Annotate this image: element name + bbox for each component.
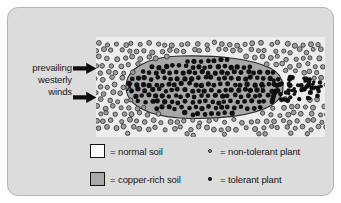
- non-tolerant-plant: [227, 42, 232, 47]
- non-tolerant-plant: [319, 75, 324, 80]
- legend-label-normal-soil: = normal soil: [110, 146, 163, 157]
- tolerant-plant: [164, 64, 169, 69]
- tolerant-plant: [187, 106, 192, 111]
- non-tolerant-plant: [108, 48, 112, 52]
- tolerant-plant: [216, 100, 221, 105]
- tolerant-plant: [162, 99, 167, 104]
- non-tolerant-plant: [151, 118, 156, 123]
- non-tolerant-plant: [185, 132, 189, 136]
- tolerant-plant: [208, 74, 213, 79]
- non-tolerant-plant: [212, 40, 216, 44]
- non-tolerant-plant: [316, 42, 321, 47]
- figure-root: prevailing westerly winds X Y = normal s: [0, 0, 341, 203]
- non-tolerant-plant: [285, 125, 290, 130]
- tolerant-plant: [149, 77, 154, 82]
- tolerant-plant: [274, 83, 279, 88]
- tolerant-plant: [174, 70, 179, 75]
- non-tolerant-plant: [110, 75, 115, 80]
- tolerant-plant: [183, 99, 188, 104]
- non-tolerant-plant: [193, 47, 198, 52]
- non-tolerant-plant: [111, 90, 116, 95]
- non-tolerant-plant: [168, 119, 173, 124]
- non-tolerant-plant: [136, 62, 141, 67]
- tolerant-plant: [307, 79, 312, 84]
- non-tolerant-plant: [249, 47, 254, 52]
- non-tolerant-plant: [164, 54, 169, 59]
- tolerant-plant: [184, 63, 189, 68]
- non-tolerant-plant: [153, 125, 157, 129]
- tolerant-plant: [195, 111, 200, 116]
- tolerant-plant: [214, 106, 219, 111]
- non-tolerant-plant: [269, 113, 273, 117]
- tolerant-plant: [175, 87, 180, 92]
- non-tolerant-plant: [211, 127, 216, 132]
- non-tolerant-plant: [257, 132, 261, 136]
- tolerant-plant: [196, 64, 201, 69]
- tolerant-plant: [182, 110, 187, 115]
- non-tolerant-plant: [309, 42, 314, 47]
- non-tolerant-plant: [108, 98, 113, 103]
- non-tolerant-plant: [100, 64, 105, 69]
- tolerant-plant: [318, 80, 323, 85]
- non-tolerant-plant: [160, 49, 165, 54]
- non-tolerant-plant: [96, 76, 97, 80]
- non-tolerant-plant: [324, 124, 325, 129]
- tolerant-plant: [248, 74, 253, 79]
- non-tolerant-plant: [96, 126, 101, 131]
- non-tolerant-plant: [244, 54, 249, 59]
- non-tolerant-plant: [96, 64, 99, 68]
- non-tolerant-plant: [252, 55, 257, 60]
- legend: = normal soil = copper-rich soil = non-t…: [90, 140, 330, 190]
- non-tolerant-plant: [134, 119, 138, 123]
- tolerant-plant: [212, 83, 217, 88]
- non-tolerant-plant: [168, 48, 173, 53]
- tolerant-plant: [242, 65, 247, 70]
- tolerant-plant: [271, 95, 275, 99]
- tolerant-plant: [213, 71, 218, 76]
- tolerant-plant: [141, 82, 146, 87]
- non-tolerant-plant: [142, 105, 146, 109]
- tolerant-plant: [197, 99, 202, 104]
- tolerant-plant: [253, 94, 258, 99]
- non-tolerant-plant: [96, 103, 100, 108]
- non-tolerant-plant: [292, 43, 297, 48]
- non-tolerant-plant: [319, 113, 323, 117]
- non-tolerant-plant: [243, 42, 247, 46]
- non-tolerant-plant: [244, 126, 248, 130]
- map-label-y: Y: [259, 83, 266, 95]
- tolerant-plant: [135, 86, 140, 91]
- non-tolerant-plant: [181, 49, 186, 54]
- legend-soil-column: = normal soil = copper-rich soil: [90, 140, 181, 190]
- tolerant-plant: [199, 93, 204, 98]
- legend-label-non-tolerant-plant: = non-tolerant plant: [220, 146, 300, 157]
- non-tolerant-plant: [119, 106, 123, 110]
- tolerant-plant: [225, 105, 230, 110]
- non-tolerant-plant: [231, 48, 236, 53]
- non-tolerant-plant: [191, 133, 195, 137]
- tolerant-plant: [307, 96, 311, 100]
- non-tolerant-plant: [278, 114, 282, 118]
- non-tolerant-plant: [113, 70, 118, 75]
- tolerant-plant: [225, 57, 230, 62]
- non-tolerant-plant: [118, 91, 123, 96]
- non-tolerant-plant: [182, 119, 186, 123]
- tolerant-plant: [236, 88, 241, 93]
- tolerant-plant: [209, 111, 214, 116]
- tolerant-plant: [220, 93, 225, 98]
- non-tolerant-plant: [262, 126, 266, 130]
- non-tolerant-plant: [295, 104, 300, 109]
- tolerant-plant-dot-icon: [202, 177, 218, 181]
- tolerant-plant: [267, 82, 272, 87]
- non-tolerant-plant: [174, 48, 179, 53]
- non-tolerant-plant: [301, 43, 305, 47]
- tolerant-plant: [191, 113, 196, 118]
- non-tolerant-plant: [98, 85, 103, 90]
- non-tolerant-plant: [100, 77, 105, 82]
- non-tolerant-plant: [294, 57, 298, 61]
- tolerant-plant: [196, 89, 201, 94]
- non-tolerant-plant: [293, 126, 297, 130]
- non-tolerant-plant: [275, 40, 279, 44]
- tolerant-plant: [228, 87, 233, 92]
- tolerant-plant: [185, 93, 190, 98]
- non-tolerant-plant: [115, 57, 120, 62]
